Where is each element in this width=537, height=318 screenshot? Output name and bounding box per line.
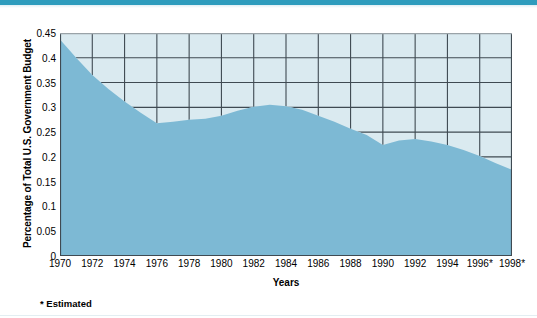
y-tick-label: 0.4 [4,52,56,63]
x-tick-label: 1982 [243,258,265,269]
x-axis-tick-labels: 1970197219741976197819801982198419861988… [60,258,512,274]
x-tick-label: 1976 [146,258,168,269]
chart-figure: Percentage of Total U.S. Government Budg… [0,8,537,313]
x-tick-label: 1992 [404,258,426,269]
y-tick-label: 0.3 [4,102,56,113]
plot-area [60,33,512,256]
y-tick-label: 0.1 [4,201,56,212]
y-tick-label: 0.15 [4,176,56,187]
x-tick-label: 1970 [49,258,71,269]
x-tick-label: 1990 [372,258,394,269]
x-tick-label: 1978 [178,258,200,269]
y-tick-label: 0.35 [4,77,56,88]
x-tick-label: 1988 [339,258,361,269]
x-tick-label: 1994 [436,258,458,269]
x-tick-label: 1986 [307,258,329,269]
x-tick-label: 1974 [113,258,135,269]
y-tick-label: 0.05 [4,226,56,237]
area-chart-svg [60,33,512,256]
x-axis-title: Years [60,277,512,288]
x-tick-label: 1972 [81,258,103,269]
y-axis-tick-labels: 00.050.10.150.20.250.30.350.40.45 [0,33,56,256]
x-tick-label: 1998* [499,258,525,269]
y-tick-label: 0.25 [4,127,56,138]
estimated-footnote: * Estimated [40,298,92,309]
x-tick-label: 1996* [467,258,493,269]
y-tick-label: 0.2 [4,151,56,162]
bottom-rule [0,315,537,316]
y-tick-label: 0.45 [4,28,56,39]
x-tick-label: 1980 [210,258,232,269]
x-tick-label: 1984 [275,258,297,269]
